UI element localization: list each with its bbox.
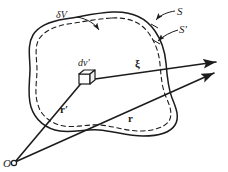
label-volume-element: dv′ <box>78 58 90 68</box>
label-shell-volume: δV <box>56 10 67 20</box>
leader-line-delta-v <box>77 17 99 30</box>
vector-xi <box>95 62 216 79</box>
figure-container: δV S S′ dv′ ξ r′ r O <box>0 0 228 172</box>
vector-r-prime <box>15 80 84 162</box>
label-origin: O <box>3 158 11 169</box>
label-position-vector-primed: r′ <box>60 104 68 115</box>
outer-boundary-solid <box>29 12 177 136</box>
leader-line-s-prime <box>158 30 178 41</box>
volume-element-cube <box>79 70 95 84</box>
label-inner-surface: S′ <box>179 24 187 35</box>
vector-r <box>15 73 214 162</box>
diagram-canvas <box>0 0 228 172</box>
label-position-vector: r <box>128 113 133 124</box>
label-displacement-vector: ξ <box>135 58 140 69</box>
leader-line-s <box>156 11 175 20</box>
label-outer-surface: S <box>177 6 183 17</box>
origin-point-marker <box>11 160 16 165</box>
